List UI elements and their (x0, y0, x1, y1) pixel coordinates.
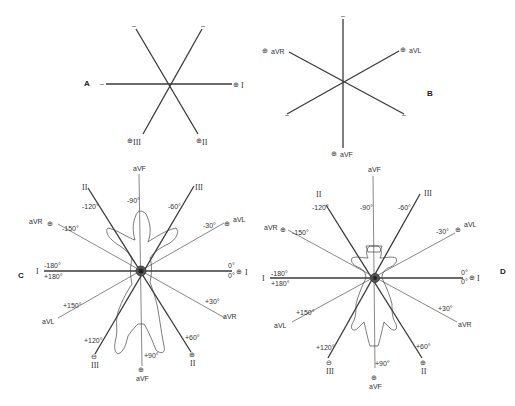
lead-iii-axis (143, 29, 202, 134)
avf-plus-icon: ⊕ (371, 374, 377, 381)
lead-avl-label: aVL (409, 47, 422, 54)
i-positive-label: I (245, 268, 248, 277)
angle-plus-120: +120° (84, 337, 103, 344)
lead-avl-positive-icon: ⊕ (400, 46, 406, 53)
angle-minus-120: -120° (82, 203, 99, 210)
avr-negative-label: aVR (458, 321, 472, 328)
angle-zero-top: 0° (228, 262, 235, 269)
ii-negative-label: II (316, 190, 322, 199)
lead-iii-negative: – (201, 22, 205, 29)
angle-plus-180: +180° (44, 273, 63, 280)
angle-plus-120: +120° (316, 344, 335, 351)
iii-positive-label: III (91, 361, 99, 370)
i-negative-label: I (262, 274, 265, 283)
panel-c-label: C (18, 271, 24, 280)
ecg-axis-figure: A – – – ⊕ I ⊕ II ⊕ III B – – – ⊕ aVR ⊕ a… (0, 0, 515, 406)
angle-zero-top: 0° (461, 269, 468, 276)
lead-avr-axis (289, 52, 404, 114)
angle-minus-60: -60° (168, 203, 181, 210)
lead-iii-label: III (133, 138, 141, 147)
ii-positive-label: II (190, 359, 196, 368)
angle-plus-90: +90° (375, 360, 390, 367)
avl-negative-label: aVL (42, 318, 55, 325)
angle-minus-90: -90° (360, 204, 373, 211)
lead-ii-label: II (202, 138, 208, 147)
i-positive-label: I (477, 274, 480, 283)
lead-i-positive-icon: ⊕ (233, 81, 239, 88)
angle-plus-150: +150° (296, 309, 315, 316)
iii-negative-label: III (195, 183, 203, 192)
avf-plus-icon: ⊕ (138, 366, 144, 373)
i-plus-icon: ⊕ (236, 268, 242, 275)
ii-positive-label: II (421, 367, 427, 376)
avr-negative-label: aVR (223, 313, 237, 320)
avr-positive-label: aVR (29, 218, 43, 225)
angle-minus-150: -150° (62, 225, 79, 232)
lead-avr-negative: – (402, 111, 406, 118)
angle-minus-120: -120° (312, 204, 329, 211)
lead-avf-negative: – (341, 12, 345, 19)
ii-plus-icon: ⊕ (420, 359, 426, 366)
avf-positive-label: aVF (369, 383, 382, 390)
avl-plus-icon: ⊕ (455, 226, 461, 233)
avf-negative-label: aVF (368, 166, 381, 173)
panel-c: C aVF II III -90° -120° -60° aVR ⊕ -150°… (18, 165, 248, 382)
panel-a-label: A (84, 79, 90, 88)
panel-d-label: D (500, 267, 506, 276)
panel-b: B – – – ⊕ aVR ⊕ aVL ⊕ aVF (262, 12, 433, 158)
angle-plus-30: +30° (205, 298, 220, 305)
angle-minus-60: -60° (398, 204, 411, 211)
avf-positive-label: aVF (136, 375, 149, 382)
lead-avr-positive-icon: ⊕ (262, 47, 268, 54)
i-negative-label: I (36, 267, 39, 276)
avl-negative-label: aVL (274, 322, 287, 329)
lead-avf-positive-icon: ⊕ (331, 150, 337, 157)
i-plus-icon: ⊕ (469, 274, 475, 281)
avl-plus-icon: ⊕ (224, 220, 230, 227)
angle-plus-180: +180° (271, 280, 290, 287)
avr-positive-label: aVR (264, 224, 278, 231)
angle-minus-30: -30° (203, 222, 216, 229)
avl-positive-label: aVL (464, 221, 477, 228)
lead-i-negative: – (100, 80, 104, 87)
lead-i-label: I (241, 81, 244, 90)
avr-plus-icon: ⊕ (280, 226, 286, 233)
angle-plus-60: +60° (185, 334, 200, 341)
panel-b-label: B (427, 89, 433, 98)
iii-minus-icon: ⊖ (91, 353, 97, 360)
iii-positive-label: III (326, 367, 334, 376)
avr-plus-icon: ⊕ (47, 220, 53, 227)
panel-d: D aVF II III -90° -120° -60° aVR ⊕ -150°… (262, 166, 506, 390)
ii-plus-icon: ⊕ (189, 351, 195, 358)
lead-ii-negative: – (132, 22, 136, 29)
lead-ii-axis (136, 29, 198, 134)
avf-negative-label: aVF (133, 165, 146, 172)
lead-avf-axis (373, 176, 375, 368)
avl-positive-label: aVL (233, 216, 246, 223)
angle-plus-30: +30° (438, 305, 453, 312)
iii-negative-label: III (424, 189, 432, 198)
angle-plus-90: +90° (144, 352, 159, 359)
angle-minus-180: -180° (271, 270, 288, 277)
angle-minus-90: -90° (127, 197, 140, 204)
iii-minus-icon: ⊖ (326, 359, 332, 366)
angle-minus-150: -150° (292, 229, 309, 236)
angle-zero-bottom: 0° (228, 272, 235, 279)
angle-minus-180: -180° (44, 262, 61, 269)
angle-minus-30: -30° (436, 228, 449, 235)
panel-a: A – – – ⊕ I ⊕ II ⊕ III (84, 22, 244, 147)
angle-plus-60: +60° (416, 343, 431, 350)
angle-zero-bottom: 0° (461, 278, 468, 285)
lead-avl-negative: – (285, 111, 289, 118)
ii-negative-label: II (82, 183, 88, 192)
lead-avf-label: aVF (340, 151, 353, 158)
lead-avr-label: aVR (271, 48, 285, 55)
angle-plus-150: +150° (63, 302, 82, 309)
